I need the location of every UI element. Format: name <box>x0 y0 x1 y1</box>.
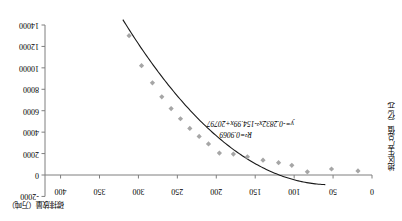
data-point-8 <box>217 150 222 155</box>
data-points <box>126 33 360 174</box>
data-point-15 <box>150 80 155 85</box>
data-point-0 <box>355 168 360 173</box>
chart-plot-area: 碳排放量（万吨） 地区生产总值（亿元） y=-0.2832x²-154.99x+… <box>0 0 402 221</box>
data-point-12 <box>178 116 183 121</box>
data-point-16 <box>139 63 144 68</box>
data-point-1 <box>329 166 334 171</box>
data-point-4 <box>276 160 281 165</box>
data-point-13 <box>169 106 174 111</box>
fit-curve <box>123 20 325 185</box>
axis-lines <box>42 25 373 196</box>
chart-canvas <box>0 0 402 221</box>
data-point-17 <box>126 33 131 38</box>
data-point-11 <box>187 126 192 131</box>
data-point-3 <box>289 163 294 168</box>
rotated-figure-container: 碳排放量（万吨） 地区生产总值（亿元） y=-0.2832x²-154.99x+… <box>0 0 402 221</box>
data-point-2 <box>305 169 310 174</box>
data-point-10 <box>197 134 202 139</box>
data-point-6 <box>245 154 250 159</box>
data-point-7 <box>231 152 236 157</box>
data-point-14 <box>159 94 164 99</box>
data-point-9 <box>206 141 211 146</box>
data-point-5 <box>260 158 265 163</box>
